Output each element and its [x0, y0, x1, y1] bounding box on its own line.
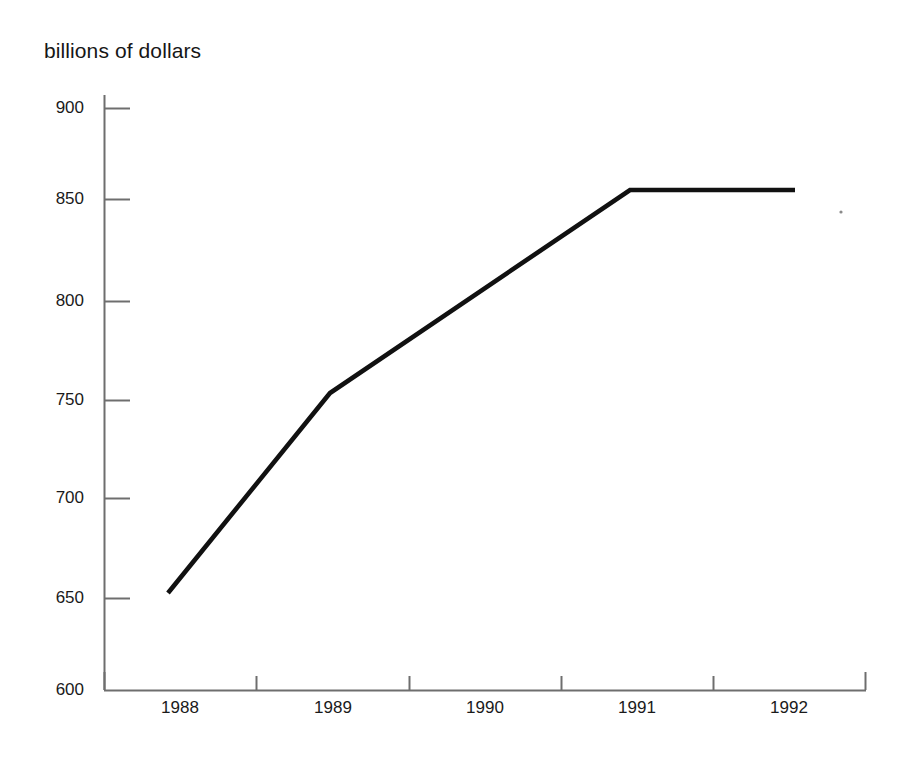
- y-tick-label-850: 850: [24, 189, 84, 209]
- line-chart-figure: billions of dollars 900 85: [0, 0, 906, 757]
- data-series-line: [168, 190, 795, 593]
- scan-speck-artifact: [839, 210, 842, 213]
- plot-area: [0, 0, 906, 757]
- x-tick-label-1991: 1991: [577, 698, 697, 718]
- y-tick-label-700: 700: [24, 488, 84, 508]
- x-tick-label-1990: 1990: [425, 698, 545, 718]
- y-tick-label-750: 750: [24, 390, 84, 410]
- y-tick-label-650: 650: [24, 588, 84, 608]
- x-tick-label-1989: 1989: [273, 698, 393, 718]
- y-tick-label-600: 600: [24, 680, 84, 700]
- y-tick-label-800: 800: [24, 291, 84, 311]
- y-axis-ticks: [105, 109, 130, 599]
- x-axis-ticks: [105, 672, 866, 690]
- y-tick-label-900: 900: [24, 98, 84, 118]
- x-tick-label-1988: 1988: [120, 698, 240, 718]
- x-tick-label-1992: 1992: [729, 698, 849, 718]
